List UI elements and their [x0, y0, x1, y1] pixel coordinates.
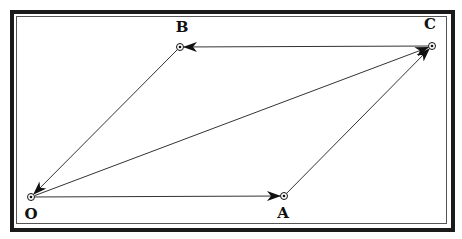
label-O: O	[24, 205, 37, 223]
vector-OA	[35, 196, 280, 197]
vector-diagram: OABC	[0, 0, 462, 239]
point-A-dot	[283, 195, 286, 198]
vector-BO	[34, 50, 177, 194]
point-O-dot	[30, 196, 33, 199]
vector-lines	[34, 46, 429, 197]
vector-AC	[287, 49, 429, 193]
label-C: C	[424, 15, 436, 33]
vector-OC	[35, 47, 429, 195]
point-C-dot	[431, 45, 434, 48]
label-B: B	[176, 18, 189, 36]
vector-CB	[184, 46, 428, 47]
label-A: A	[276, 204, 289, 222]
point-B-dot	[179, 46, 182, 49]
